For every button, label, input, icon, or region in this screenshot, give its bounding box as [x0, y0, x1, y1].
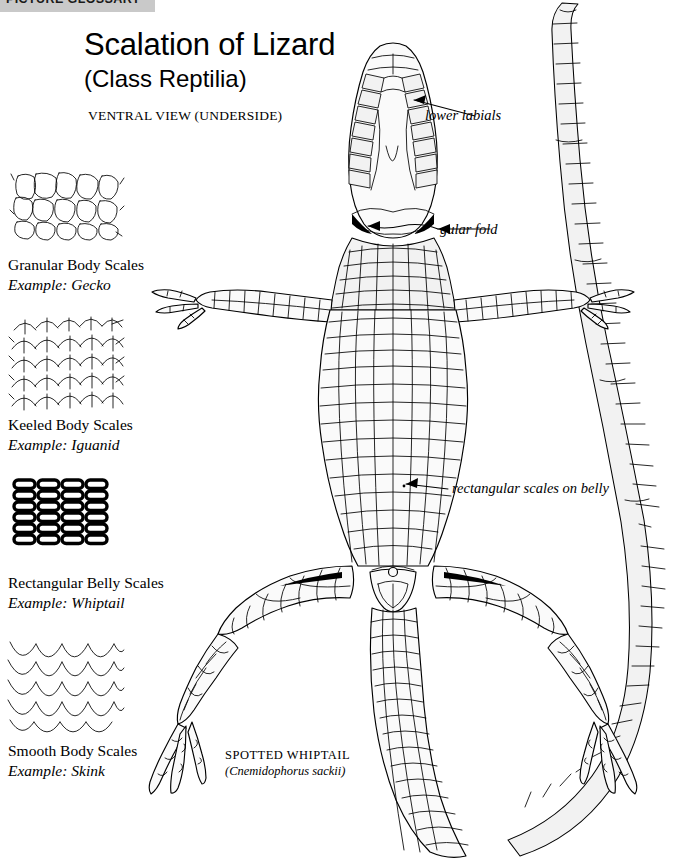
head: [349, 43, 438, 238]
forelimb-right: [454, 290, 634, 329]
neck: [330, 238, 456, 310]
lizard-ventral-illustration: [0, 0, 688, 861]
forelimb-left: [152, 290, 332, 329]
annotation-lower-labials: lower labials: [425, 107, 501, 124]
belly: [318, 310, 467, 566]
annotation-gular-fold: gular fold: [440, 221, 498, 238]
hindlimb-right: [432, 566, 636, 794]
specimen-scientific-name: (Cnemidophorus sackii): [225, 764, 345, 779]
picture-glossary-page: PICTURE GLOSSARY Scalation of Lizard (Cl…: [0, 0, 688, 861]
vent-plate: [370, 566, 416, 612]
annotation-belly-scales: rectangular scales on belly: [452, 480, 609, 497]
specimen-common-name: SPOTTED WHIPTAIL: [225, 748, 350, 763]
tail-base: [370, 608, 468, 857]
tail: [508, 3, 665, 856]
